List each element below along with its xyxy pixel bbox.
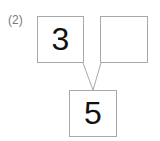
connector-right-to-sum — [93, 63, 101, 90]
problem-number-label: (2) — [8, 13, 23, 27]
sum-value: 5 — [84, 97, 102, 129]
connector-left-to-sum — [83, 63, 93, 90]
sum-box[interactable]: 5 — [69, 90, 117, 137]
addend-left-box[interactable]: 3 — [37, 16, 84, 63]
addend-right-box[interactable] — [100, 16, 148, 63]
number-bond-diagram: (2) 3 5 — [0, 0, 160, 141]
addend-left-value: 3 — [52, 23, 70, 55]
